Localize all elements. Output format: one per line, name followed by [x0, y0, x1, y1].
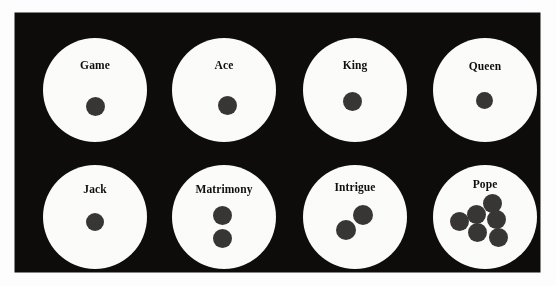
compartment-label-king: King: [303, 60, 407, 72]
counter-token: [86, 213, 104, 231]
compartment-label-matrimony: Matrimony: [172, 184, 276, 196]
counter-token: [213, 206, 232, 225]
counter-token: [218, 96, 237, 115]
counter-token: [467, 205, 486, 224]
counter-token: [487, 210, 506, 229]
compartment-jack[interactable]: Jack: [43, 165, 147, 269]
counter-token: [86, 97, 105, 116]
compartment-pope[interactable]: Pope: [433, 165, 537, 269]
compartment-label-game: Game: [43, 60, 147, 72]
counter-token: [343, 92, 362, 111]
compartment-game[interactable]: Game: [43, 38, 147, 142]
counter-token: [213, 229, 232, 248]
compartment-label-queen: Queen: [433, 61, 537, 73]
counter-token: [489, 228, 508, 247]
counter-token: [353, 205, 373, 225]
counter-token: [468, 223, 487, 242]
pope-joan-board-figure: Game Ace King Queen Jack Matrimony: [0, 0, 556, 286]
counter-token: [336, 220, 356, 240]
game-board: Game Ace King Queen Jack Matrimony: [15, 13, 540, 272]
compartment-ace[interactable]: Ace: [172, 38, 276, 142]
compartment-label-pope: Pope: [433, 179, 537, 191]
compartment-label-intrigue: Intrigue: [303, 182, 407, 194]
counter-token: [476, 92, 493, 109]
compartment-intrigue[interactable]: Intrigue: [303, 165, 407, 269]
compartment-king[interactable]: King: [303, 38, 407, 142]
counter-token: [450, 212, 469, 231]
compartment-matrimony[interactable]: Matrimony: [172, 165, 276, 269]
compartment-label-ace: Ace: [172, 60, 276, 72]
compartment-label-jack: Jack: [43, 184, 147, 196]
compartment-queen[interactable]: Queen: [433, 38, 537, 142]
